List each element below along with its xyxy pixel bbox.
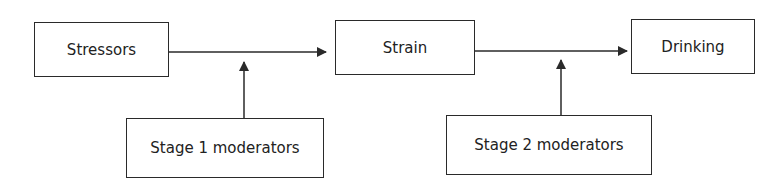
node-label: Drinking bbox=[661, 38, 724, 56]
node-stage2-moderators: Stage 2 moderators bbox=[446, 115, 652, 175]
node-stage1-moderators: Stage 1 moderators bbox=[126, 118, 324, 178]
node-label: Stage 2 moderators bbox=[474, 136, 623, 154]
node-label: Strain bbox=[383, 39, 427, 57]
node-strain: Strain bbox=[335, 20, 475, 75]
node-label: Stressors bbox=[67, 41, 136, 59]
node-drinking: Drinking bbox=[631, 19, 755, 74]
node-stressors: Stressors bbox=[34, 22, 169, 77]
node-label: Stage 1 moderators bbox=[150, 139, 299, 157]
